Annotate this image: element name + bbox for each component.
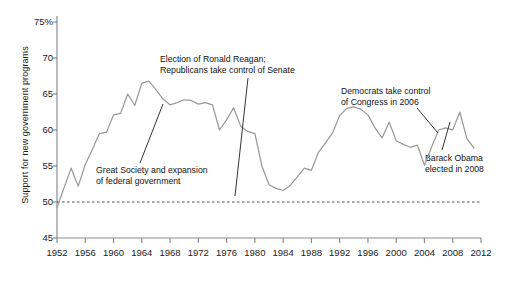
leader-line-obama-elected-2008 — [442, 122, 450, 150]
leader-line-reagan-election — [235, 78, 248, 196]
data-line-0 — [57, 81, 474, 208]
leader-line-great-society — [140, 104, 163, 163]
leader-line-democrats-congress-2006 — [417, 108, 438, 133]
chart-container: Support for new government programs 4550… — [0, 0, 513, 285]
plot-area — [0, 0, 513, 285]
